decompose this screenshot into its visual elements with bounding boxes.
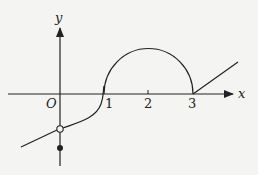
y-axis-label: y [54,10,63,25]
x-tick-label-3: 3 [188,96,196,111]
left-line [21,130,57,147]
semicircle [104,48,193,94]
origin-label: O [46,96,57,111]
graph-canvas: y x O 1 2 3 [0,0,258,175]
s-curve [63,86,104,128]
filled-dot [57,145,63,151]
function-graph-figure: y x O 1 2 3 [0,0,258,175]
x-axis-label: x [238,86,246,101]
x-tick-label-2: 2 [144,96,152,111]
open-circle [57,126,63,132]
right-ray [193,62,238,94]
x-tick-label-1: 1 [105,96,113,111]
